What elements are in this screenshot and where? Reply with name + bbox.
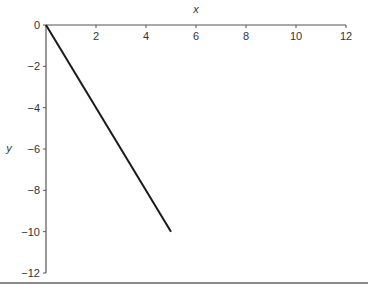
y-tick-label: −8 xyxy=(27,184,40,196)
y-axis-label: y xyxy=(5,142,13,154)
y-tick-label: −2 xyxy=(27,60,40,72)
x-tick-label: 4 xyxy=(143,30,149,42)
x-tick-label: 8 xyxy=(243,30,249,42)
data-series xyxy=(46,25,171,232)
y-tick-label: −10 xyxy=(21,226,40,238)
x-tick-label: 10 xyxy=(290,30,302,42)
line-chart: 24681012 0−2−4−6−8−10−12 x y xyxy=(0,0,368,291)
y-axis: 0−2−4−6−8−10−12 xyxy=(21,19,46,279)
y-tick-label: −12 xyxy=(21,267,40,279)
x-tick-label: 2 xyxy=(93,30,99,42)
series-line xyxy=(46,25,171,232)
x-axis-label: x xyxy=(192,3,199,15)
y-tick-label: 0 xyxy=(34,19,40,31)
x-tick-label: 12 xyxy=(340,30,352,42)
y-tick-label: −6 xyxy=(27,143,40,155)
x-tick-label: 6 xyxy=(193,30,199,42)
x-axis: 24681012 xyxy=(46,25,352,42)
y-tick-label: −4 xyxy=(27,102,40,114)
bottom-divider xyxy=(0,282,368,284)
